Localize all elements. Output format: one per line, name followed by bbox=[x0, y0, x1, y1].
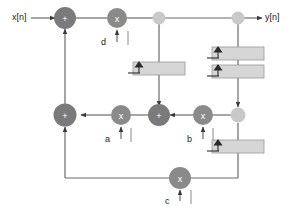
coefficient-label-d: d bbox=[101, 38, 106, 47]
coefficient-label-c: c bbox=[165, 197, 170, 206]
node-mult-b: x bbox=[193, 105, 213, 125]
diagram-canvas: + x + x + bbox=[0, 0, 292, 210]
node-mult-c: x bbox=[169, 167, 191, 189]
output-label: y[n] bbox=[265, 13, 280, 22]
delay-right-bottom bbox=[207, 140, 264, 153]
node-sum-top: + bbox=[54, 7, 76, 29]
svg-text:+: + bbox=[62, 14, 67, 24]
node-branch-mid-right bbox=[231, 108, 246, 123]
nodes: + x + x + bbox=[54, 7, 246, 189]
node-sum-left: + bbox=[54, 104, 77, 127]
delay-right-upper bbox=[207, 47, 264, 60]
delay-mid bbox=[128, 62, 185, 75]
node-branch-top-mid bbox=[153, 12, 166, 25]
delay-right-lower bbox=[207, 65, 264, 78]
svg-text:+: + bbox=[62, 111, 67, 121]
svg-text:+: + bbox=[156, 111, 161, 121]
coefficient-label-a: a bbox=[105, 135, 110, 144]
svg-text:x: x bbox=[178, 174, 183, 184]
node-mult-d: x bbox=[107, 8, 127, 28]
svg-text:x: x bbox=[119, 111, 124, 121]
signal-flow-diagram: + x + x + bbox=[0, 0, 292, 210]
input-label: x[n] bbox=[12, 13, 27, 22]
coefficient-label-b: b bbox=[187, 135, 192, 144]
delay-blocks bbox=[128, 47, 264, 153]
svg-text:x: x bbox=[115, 14, 120, 24]
node-mult-a: x bbox=[111, 105, 131, 125]
node-sum-mid: + bbox=[148, 104, 170, 126]
node-branch-top-right bbox=[232, 12, 245, 25]
svg-text:x: x bbox=[201, 111, 206, 121]
